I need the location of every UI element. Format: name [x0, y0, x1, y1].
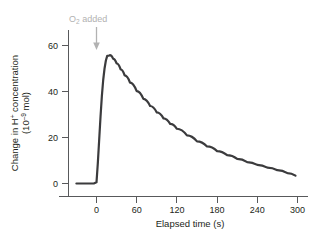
x-tick-label-180: 180 [210, 205, 225, 215]
y-tick-label-40: 40 [48, 87, 58, 97]
y-tick-label-0: 0 [53, 179, 58, 189]
svg-text:(10–9 mol): (10–9 mol) [20, 92, 31, 134]
x-tick-label-240: 240 [250, 205, 265, 215]
line-chart: 0 20 40 60 0 60 120 180 240 300 Elapsed … [0, 0, 319, 232]
y-axis-title: Change in H+ concentration (10–9 mol) [9, 55, 31, 171]
x-tick-marks [97, 197, 298, 204]
y-tick-label-60: 60 [48, 41, 58, 51]
annotation-o2-added-label: O2 added [69, 14, 107, 25]
svg-text:Change in H+ concentration: Change in H+ concentration [9, 55, 20, 171]
data-curve [76, 55, 295, 183]
x-tick-label-0: 0 [94, 205, 99, 215]
y-tick-label-20: 20 [48, 133, 58, 143]
y-tick-marks [62, 46, 69, 184]
x-tick-label-120: 120 [169, 205, 184, 215]
annotation-down-arrow-icon [93, 27, 100, 50]
x-tick-label-60: 60 [132, 205, 142, 215]
x-axis-title: Elapsed time (s) [156, 218, 225, 229]
figure-container: 0 20 40 60 0 60 120 180 240 300 Elapsed … [0, 0, 319, 232]
x-tick-label-300: 300 [290, 205, 305, 215]
